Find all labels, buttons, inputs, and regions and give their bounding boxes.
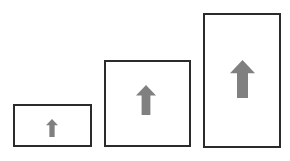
diagram-canvas — [0, 0, 290, 161]
up-arrow-icon-medium — [136, 85, 156, 115]
rectangle-medium — [104, 60, 191, 147]
rectangle-large — [203, 13, 281, 148]
up-arrow-icon-large — [230, 60, 255, 98]
rectangle-small — [13, 104, 92, 147]
up-arrow-icon-small — [46, 119, 58, 137]
